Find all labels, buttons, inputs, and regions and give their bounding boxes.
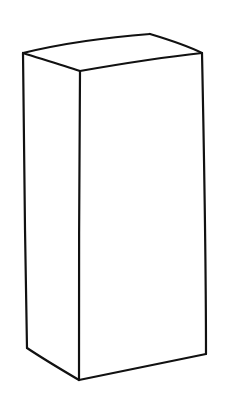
box-left-face: [23, 53, 80, 380]
box-front-face: [79, 53, 206, 380]
sketch-canvas: Hand-drawn line sketch of a tall rectang…: [0, 0, 232, 397]
box-drawing: [0, 0, 232, 397]
front-vertical-edge: [79, 71, 80, 380]
